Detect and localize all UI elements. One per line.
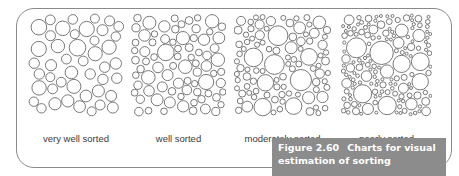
grain-circle	[78, 56, 88, 66]
grain-circle	[31, 19, 47, 35]
grain-circle	[426, 20, 431, 25]
grain-circle	[135, 107, 144, 116]
grain-circle	[351, 78, 355, 82]
grain-circle	[407, 43, 414, 50]
grain-circle	[411, 27, 414, 30]
grain-circle	[286, 19, 294, 27]
grain-circle	[88, 47, 102, 61]
grain-circle	[426, 43, 430, 47]
grain-circle	[170, 62, 177, 69]
grain-circle	[318, 53, 323, 58]
grain-circle	[134, 81, 142, 89]
grain-circle	[386, 15, 389, 18]
grain-circle	[172, 25, 180, 33]
grain-circle	[376, 79, 380, 83]
figure-title-line2: estimation of sorting	[278, 154, 440, 167]
grain-circle	[198, 34, 209, 45]
grain-circle	[318, 40, 327, 49]
grain-circle	[367, 54, 370, 57]
grain-circle	[196, 49, 203, 56]
grain-circle	[257, 75, 273, 91]
grain-packing-diagram	[341, 13, 432, 119]
grain-circle	[45, 15, 55, 25]
grain-circle	[354, 85, 372, 103]
grain-circle	[236, 41, 243, 48]
grain-circle	[97, 25, 108, 36]
grain-circle	[346, 111, 350, 115]
grain-circle	[429, 33, 432, 36]
grain-circle	[178, 93, 184, 99]
grain-circle	[322, 57, 330, 65]
grain-circle	[400, 51, 404, 55]
grain-circle	[348, 75, 351, 78]
grain-circle	[29, 97, 38, 106]
grain-circle	[380, 90, 384, 94]
grain-circle	[341, 69, 345, 73]
grain-packing-diagram	[28, 13, 124, 119]
grain-circle	[380, 65, 393, 78]
grain-circle	[210, 44, 219, 53]
grain-circle	[385, 38, 388, 41]
grain-circle	[203, 51, 212, 60]
grain-circle	[143, 58, 150, 65]
grain-circle	[406, 98, 418, 110]
grain-circle	[266, 17, 275, 26]
grain-circle	[264, 26, 269, 31]
grain-circle	[425, 25, 429, 29]
grain-circle	[260, 15, 265, 20]
grain-circle	[410, 14, 413, 17]
grain-circle	[373, 100, 378, 105]
grain-circle	[191, 99, 198, 106]
grain-circle	[218, 23, 226, 31]
grain-circle	[157, 82, 167, 92]
panel-label: well sorted	[131, 133, 226, 144]
grain-circle	[426, 36, 429, 39]
grain-circle	[315, 69, 324, 78]
grain-circle	[173, 78, 183, 88]
grain-circle	[49, 98, 61, 110]
grain-circle	[265, 55, 285, 75]
grain-circle	[139, 30, 151, 42]
grain-circle	[373, 75, 376, 78]
grain-circle	[427, 15, 430, 18]
grain-circle	[378, 96, 396, 114]
grain-circle	[360, 20, 364, 24]
grain-circle	[291, 57, 297, 63]
grain-circle	[344, 15, 354, 25]
grain-circle	[360, 112, 363, 115]
grain-circle	[176, 32, 189, 45]
figure-number: Figure 2.60	[278, 142, 339, 153]
grain-circle	[398, 105, 402, 109]
grain-circle	[322, 79, 327, 84]
grain-circle	[272, 96, 279, 103]
grain-circle	[107, 102, 118, 113]
grain-circle	[110, 58, 121, 69]
grain-circle	[234, 71, 239, 76]
grain-circle	[390, 78, 393, 81]
grain-circle	[410, 87, 413, 90]
panel-very-well-sorted: very well sorted	[28, 13, 124, 119]
grain-circle	[313, 16, 326, 29]
grain-circle	[244, 39, 249, 44]
grain-circle	[48, 84, 58, 94]
grain-circle	[358, 81, 361, 84]
grain-circle	[65, 66, 78, 79]
grain-circle	[316, 111, 321, 116]
grain-circle	[416, 46, 420, 50]
grain-circle	[401, 74, 407, 80]
grain-circle	[429, 94, 432, 97]
grain-circle	[362, 103, 373, 114]
grain-circle	[205, 90, 212, 97]
grain-circle	[342, 33, 348, 39]
grain-circle	[74, 101, 86, 113]
grain-circle	[45, 60, 56, 71]
grain-circle	[178, 101, 189, 112]
grain-circle	[212, 107, 220, 115]
grain-circle	[352, 101, 358, 107]
grain-circle	[418, 110, 421, 113]
grain-circle	[323, 26, 330, 33]
grain-circle	[237, 64, 244, 71]
grain-circle	[266, 46, 272, 52]
grain-circle	[346, 64, 354, 72]
grain-circle	[234, 59, 239, 64]
